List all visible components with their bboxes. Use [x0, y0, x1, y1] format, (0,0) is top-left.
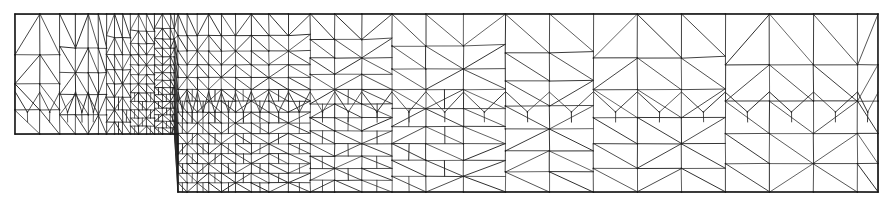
- finite-element-mesh-figure: [0, 0, 893, 208]
- figure-container: Graded triangular finite element mesh on…: [0, 0, 893, 208]
